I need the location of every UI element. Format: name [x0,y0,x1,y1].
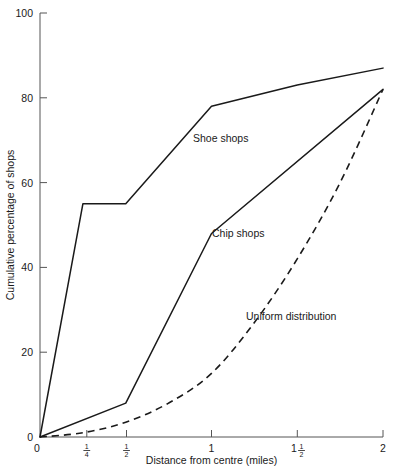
x-tick-label-one-and-half-whole: 1 [291,442,297,454]
series-line-shoe-shops [40,68,383,437]
x-axis-title: Distance from centre (miles) [146,454,277,466]
x-tick-label-two: 2 [380,442,386,454]
y-tick-label-0: 0 [27,431,33,443]
series-group [40,68,383,437]
x-tick-label-one-and-half-denominator: 2 [300,451,304,458]
x-tick-label-quarter-denominator: 4 [85,451,89,458]
x-tick-label-one: 1 [209,442,215,454]
chart-container: 100 80 60 40 20 0 0 1 4 1 [0,0,396,467]
x-tick-label-one-and-half: 1 1 2 [291,442,305,458]
y-tick-label-100: 100 [15,7,33,19]
y-tick-label-20: 20 [21,346,33,358]
y-tick-label-80: 80 [21,92,33,104]
x-tick-label-quarter-numerator: 1 [85,443,89,450]
x-tick-label-half-numerator: 1 [125,443,129,450]
y-axis-title: Cumulative percentage of shops [4,150,16,301]
x-tick-label-0: 0 [34,442,40,454]
series-label-chip-shops: Chip shops [212,227,265,239]
x-tick-label-half: 1 2 [123,443,130,458]
y-tick-label-60: 60 [21,177,33,189]
series-annotation-group: Shoe shops Chip shops Uniform distributi… [193,132,337,322]
x-tick-label-quarter: 1 4 [83,443,90,458]
series-label-shoe-shops: Shoe shops [193,132,248,144]
y-tick-group: 100 80 60 40 20 0 [15,7,47,443]
cumulative-percentage-line-chart: 100 80 60 40 20 0 0 1 4 1 [0,0,396,467]
series-label-uniform-distribution: Uniform distribution [246,310,337,322]
x-tick-label-one-and-half-numerator: 1 [300,443,304,450]
x-tick-label-half-denominator: 2 [125,451,129,458]
y-tick-label-40: 40 [21,261,33,273]
